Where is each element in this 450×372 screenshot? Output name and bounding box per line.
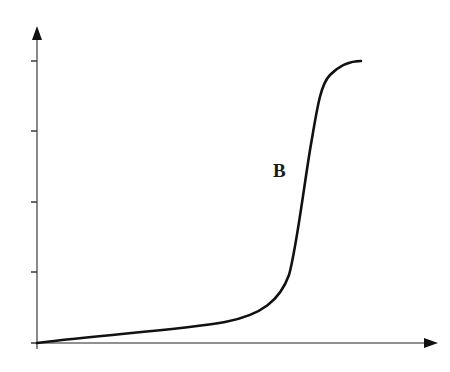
curve-label: B: [273, 160, 286, 182]
x-axis-arrow-icon: [424, 338, 438, 348]
x-axis: [31, 338, 438, 348]
y-axis: [31, 26, 42, 349]
chart-canvas: [0, 0, 450, 372]
y-axis-arrow-icon: [32, 26, 42, 40]
curve-b: [37, 61, 361, 343]
